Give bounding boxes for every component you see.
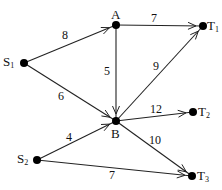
- node-T2: [189, 108, 197, 116]
- edge-weight-label: 4: [66, 131, 72, 143]
- node-label: A: [111, 8, 120, 21]
- node-label-text: A: [111, 7, 120, 22]
- node-S2: [33, 156, 41, 164]
- node-label-text: T: [198, 104, 206, 119]
- edge-weight-label: 7: [151, 12, 157, 24]
- edge-S1-B: [24, 63, 116, 121]
- node-label-subscript: 1: [10, 61, 14, 70]
- graph-diagram: 86759121047S1S2ABT1T2T3: [0, 0, 222, 190]
- node-T1: [199, 22, 207, 30]
- node-A: [112, 21, 120, 29]
- arrowhead-icon: [101, 110, 110, 117]
- edge-weight-label: 12: [150, 103, 162, 115]
- edge-S2-B: [37, 121, 116, 160]
- node-label-subscript: 2: [24, 158, 28, 167]
- edge-weight-label: 8: [62, 29, 68, 41]
- node-label-text: T: [207, 18, 215, 33]
- edge-B-T3: [116, 121, 192, 176]
- node-S1: [20, 59, 28, 67]
- node-label: S1: [3, 55, 14, 70]
- edge-weight-label: 9: [153, 60, 159, 72]
- edges-layer: [0, 0, 222, 190]
- node-label: B: [111, 127, 120, 140]
- node-label: T2: [198, 105, 210, 120]
- node-label: T1: [207, 19, 219, 34]
- node-label-subscript: 1: [215, 25, 219, 34]
- edge-weight-label: 7: [109, 169, 115, 181]
- node-T3: [188, 172, 196, 180]
- edge-weight-label: 6: [58, 90, 64, 102]
- edge-weight-label: 10: [149, 134, 161, 146]
- edge-A-T1: [116, 25, 203, 26]
- node-label: S2: [17, 152, 28, 167]
- edge-S1-A: [24, 25, 116, 63]
- edge-weight-label: 5: [104, 65, 110, 77]
- node-label-subscript: 2: [206, 111, 210, 120]
- node-label: T3: [197, 169, 209, 184]
- node-label-text: B: [111, 126, 120, 141]
- node-label-subscript: 3: [205, 175, 209, 184]
- node-label-text: T: [197, 168, 205, 183]
- node-B: [112, 117, 120, 125]
